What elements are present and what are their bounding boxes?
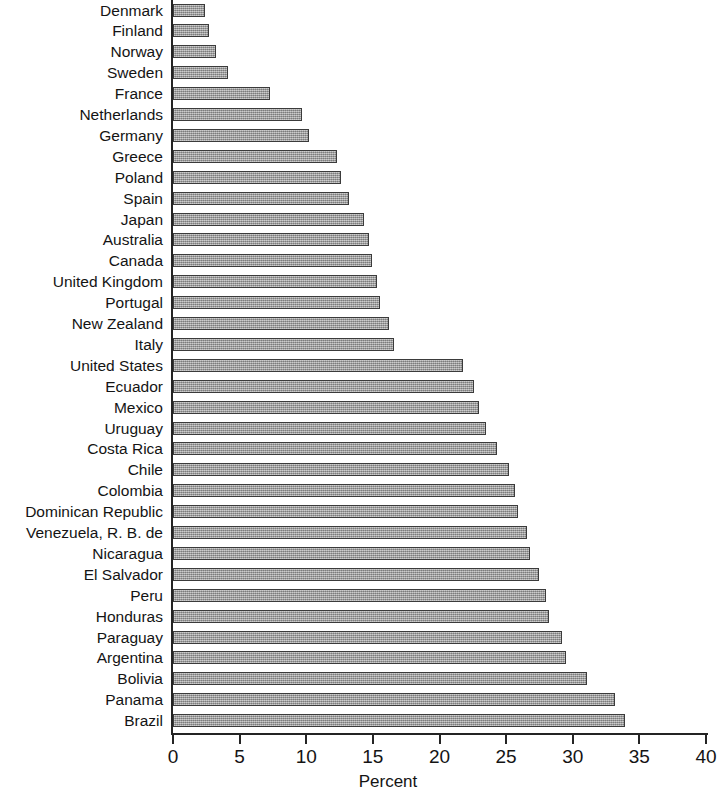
- category-label: Norway: [0, 44, 163, 60]
- category-label: Sweden: [0, 65, 163, 81]
- bar: [173, 359, 463, 372]
- x-axis-tick: [572, 735, 574, 744]
- bar: [173, 422, 486, 435]
- x-axis-tick: [505, 735, 507, 744]
- bar: [173, 296, 380, 309]
- bar: [173, 317, 389, 330]
- x-axis-tick: [372, 735, 374, 744]
- x-axis-title: Percent: [0, 772, 721, 792]
- plot-area: [173, 0, 706, 733]
- category-label: Greece: [0, 149, 163, 165]
- category-label: Germany: [0, 128, 163, 144]
- x-axis-tick: [439, 735, 441, 744]
- category-label: Brazil: [0, 713, 163, 729]
- bar: [173, 505, 518, 518]
- bar: [173, 87, 270, 100]
- bar: [173, 463, 509, 476]
- category-label: Canada: [0, 253, 163, 269]
- bar: [173, 24, 209, 37]
- x-axis-tick: [239, 735, 241, 744]
- category-label: Colombia: [0, 483, 163, 499]
- category-label: Dominican Republic: [0, 504, 163, 520]
- bar: [173, 233, 369, 246]
- x-axis-tick-label: 20: [410, 746, 470, 768]
- category-label: Italy: [0, 337, 163, 353]
- category-label: Denmark: [0, 3, 163, 19]
- category-label: France: [0, 86, 163, 102]
- bar: [173, 45, 216, 58]
- category-label: Paraguay: [0, 630, 163, 646]
- bar: [173, 171, 341, 184]
- category-axis: DenmarkFinlandNorwaySwedenFranceNetherla…: [0, 0, 168, 736]
- bar-chart: DenmarkFinlandNorwaySwedenFranceNetherla…: [0, 0, 721, 798]
- bar: [173, 192, 349, 205]
- bar: [173, 651, 566, 664]
- category-label: Honduras: [0, 609, 163, 625]
- category-label: Costa Rica: [0, 441, 163, 457]
- x-axis-tick-label: 35: [609, 746, 669, 768]
- bar: [173, 484, 515, 497]
- bar: [173, 714, 625, 727]
- x-axis-tick: [305, 735, 307, 744]
- x-axis-tick-label: 5: [210, 746, 270, 768]
- category-label: Japan: [0, 212, 163, 228]
- category-label: Mexico: [0, 400, 163, 416]
- category-label: Panama: [0, 692, 163, 708]
- x-axis-tick-label: 40: [676, 746, 721, 768]
- category-label: Netherlands: [0, 107, 163, 123]
- bar: [173, 213, 364, 226]
- bar: [173, 610, 549, 623]
- bar: [173, 526, 527, 539]
- category-label: United States: [0, 358, 163, 374]
- bar: [173, 380, 474, 393]
- category-label: El Salvador: [0, 567, 163, 583]
- bar: [173, 254, 372, 267]
- bar: [173, 4, 205, 17]
- bar: [173, 631, 562, 644]
- x-axis-tick-label: 30: [543, 746, 603, 768]
- bar: [173, 129, 309, 142]
- bar: [173, 401, 479, 414]
- x-axis-tick: [638, 735, 640, 744]
- category-label: Nicaragua: [0, 546, 163, 562]
- y-axis-line: [171, 0, 173, 733]
- category-label: Portugal: [0, 295, 163, 311]
- bar: [173, 442, 497, 455]
- x-axis-tick-label: 15: [343, 746, 403, 768]
- bar: [173, 672, 587, 685]
- category-label: Finland: [0, 23, 163, 39]
- bar: [173, 275, 377, 288]
- category-label: New Zealand: [0, 316, 163, 332]
- category-label: Argentina: [0, 650, 163, 666]
- category-label: Venezuela, R. B. de: [0, 525, 163, 541]
- x-axis-tick: [705, 735, 707, 744]
- x-axis-tick-label: 0: [143, 746, 203, 768]
- category-label: Spain: [0, 191, 163, 207]
- category-label: Chile: [0, 462, 163, 478]
- category-label: Poland: [0, 170, 163, 186]
- x-axis-tick-label: 25: [476, 746, 536, 768]
- category-label: Uruguay: [0, 421, 163, 437]
- bar: [173, 589, 546, 602]
- bar: [173, 150, 337, 163]
- category-label: United Kingdom: [0, 274, 163, 290]
- bar: [173, 547, 530, 560]
- bar: [173, 66, 228, 79]
- category-label: Australia: [0, 232, 163, 248]
- x-axis-tick: [172, 735, 174, 744]
- category-label: Peru: [0, 588, 163, 604]
- bar: [173, 568, 539, 581]
- x-axis-tick-label: 10: [276, 746, 336, 768]
- bar: [173, 338, 394, 351]
- bar: [173, 108, 302, 121]
- category-label: Bolivia: [0, 671, 163, 687]
- bar: [173, 693, 615, 706]
- category-label: Ecuador: [0, 379, 163, 395]
